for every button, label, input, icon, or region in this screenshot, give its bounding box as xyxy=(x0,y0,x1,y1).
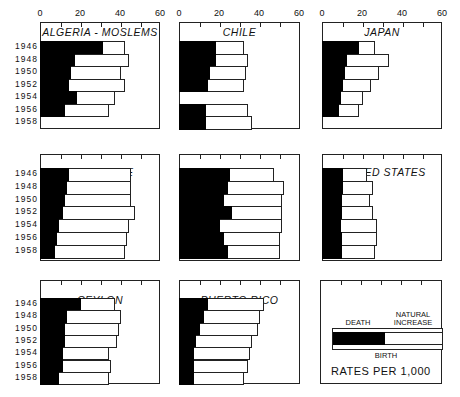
bar-1948 xyxy=(322,181,373,195)
tick-60: 60 xyxy=(155,8,165,18)
year-label: 1950 xyxy=(15,66,38,76)
death-segment xyxy=(322,232,342,246)
tick-40: 40 xyxy=(115,8,125,18)
death-segment xyxy=(179,245,228,259)
year-label: 1956 xyxy=(15,360,38,370)
legend-death-label: DEATH xyxy=(333,319,383,327)
death-segment xyxy=(322,41,359,55)
bar-1948 xyxy=(40,181,131,195)
bar-1958 xyxy=(40,245,125,259)
bar-1948 xyxy=(179,181,284,195)
legend-birth-label: BIRTH xyxy=(361,352,411,360)
bar-1954 xyxy=(179,347,250,360)
death-segment xyxy=(179,360,194,373)
year-label: 1950 xyxy=(15,194,38,204)
year-label: 1946 xyxy=(15,168,38,178)
bar-1954 xyxy=(322,219,377,233)
bar-1958 xyxy=(322,245,375,259)
death-segment xyxy=(40,323,65,336)
year-label: 1948 xyxy=(15,54,38,64)
year-label: 1954 xyxy=(15,91,38,101)
death-segment xyxy=(179,347,194,360)
bar-1954 xyxy=(40,91,115,105)
death-segment xyxy=(40,54,75,68)
death-segment xyxy=(322,181,343,195)
death-segment xyxy=(40,181,67,195)
bar-1950 xyxy=(322,66,379,80)
bar-1952 xyxy=(322,79,371,93)
bar-1950 xyxy=(179,323,258,336)
tick-60: 60 xyxy=(294,8,304,18)
death-segment xyxy=(179,41,216,55)
death-segment xyxy=(179,372,194,385)
death-segment xyxy=(40,335,65,348)
bar-1946 xyxy=(179,298,264,311)
bar-1952 xyxy=(322,206,373,220)
death-segment xyxy=(179,116,206,130)
bar-1950 xyxy=(179,66,246,80)
bar-1948 xyxy=(322,54,389,68)
death-segment xyxy=(40,360,63,373)
panel-algeria: ALGERIA - MOSLEMS xyxy=(40,22,160,129)
death-segment xyxy=(322,245,342,259)
death-segment xyxy=(179,232,224,246)
death-segment xyxy=(179,206,232,220)
death-segment xyxy=(322,91,341,105)
bar-1950 xyxy=(179,194,282,208)
bar-1952 xyxy=(40,79,125,93)
death-segment xyxy=(40,168,69,182)
bar-1948 xyxy=(40,310,121,323)
panel-title: JAPAN xyxy=(323,26,441,38)
death-segment xyxy=(179,298,208,311)
bar-1956 xyxy=(179,104,248,118)
death-segment xyxy=(40,232,57,246)
bar-1946 xyxy=(322,41,375,55)
bar-1958 xyxy=(40,372,109,385)
bar-1954 xyxy=(322,91,363,105)
bar-1956 xyxy=(40,104,109,118)
bar-1954 xyxy=(40,219,129,233)
year-label: 1954 xyxy=(15,219,38,229)
panel-chile: CHILE xyxy=(179,22,300,129)
death-segment xyxy=(179,66,210,80)
bar-1956 xyxy=(179,360,248,373)
year-label: 1958 xyxy=(15,116,38,126)
bar-1946 xyxy=(179,168,274,182)
year-label: 1958 xyxy=(15,245,38,255)
death-segment xyxy=(179,79,208,93)
panel-japan: JAPAN xyxy=(322,22,442,129)
death-segment xyxy=(179,168,230,182)
death-segment xyxy=(40,91,77,105)
panel-title: ALGERIA - MOSLEMS xyxy=(41,26,159,38)
bar-1948 xyxy=(179,54,248,68)
bar-1952 xyxy=(40,206,135,220)
year-label: 1948 xyxy=(15,181,38,191)
tick-40: 40 xyxy=(397,8,407,18)
bar-1956 xyxy=(40,360,111,373)
bar-1950 xyxy=(40,66,121,80)
death-segment xyxy=(179,104,206,118)
bar-1946 xyxy=(40,168,131,182)
panel-puerto-rico: PUERTO RICO xyxy=(179,280,300,384)
year-label: 1952 xyxy=(15,79,38,89)
death-segment xyxy=(40,79,69,93)
death-segment xyxy=(179,323,200,336)
death-segment xyxy=(40,310,67,323)
tick-0: 0 xyxy=(319,8,324,18)
year-label: 1954 xyxy=(15,347,38,357)
bar-1954 xyxy=(179,219,282,233)
tick-20: 20 xyxy=(357,8,367,18)
year-label: 1956 xyxy=(15,232,38,242)
legend-natural-increase-label: NATURAL INCREASE xyxy=(383,311,443,327)
tick-0: 0 xyxy=(176,8,181,18)
bar-1956 xyxy=(40,232,127,246)
death-segment xyxy=(179,335,196,348)
panel-guatemala: GUATEMALA xyxy=(179,154,300,261)
tick-20: 20 xyxy=(75,8,85,18)
tick-40: 40 xyxy=(254,8,264,18)
year-label: 1946 xyxy=(15,41,38,51)
year-label: 1958 xyxy=(15,372,38,382)
bar-1946 xyxy=(40,298,115,311)
panel-title: CHILE xyxy=(180,26,299,38)
tick-0: 0 xyxy=(37,8,42,18)
